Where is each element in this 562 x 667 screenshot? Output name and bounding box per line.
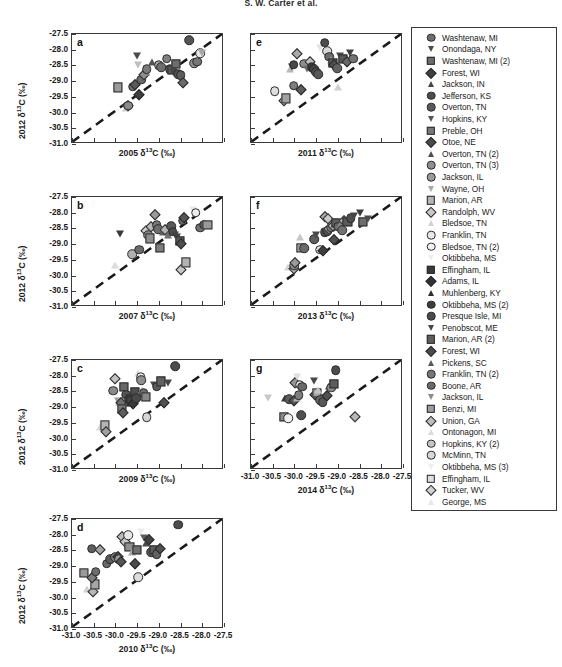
legend-item: Overton, TN (3) [412,160,556,172]
legend-item-label: Bledsoe, TN [442,218,487,228]
legend-item-label: Marion, AR [442,195,483,205]
legend-symbol-square [412,403,442,415]
x-tick-label: -27.5 [393,472,412,481]
y-tick-mark [251,113,255,114]
x-tick-mark [224,464,225,468]
data-point-circle [171,361,181,371]
x-tick-label: -28.5 [170,631,189,640]
legend-item-label: Effingham, IL [442,474,490,484]
x-tick-mark [159,623,160,627]
x-tick-mark [360,138,361,142]
legend-item: Jefferson, KS [412,90,556,102]
plot-area-a: a [71,33,223,143]
data-point-diamond [149,209,161,221]
marker-diamond-icon [426,67,437,78]
x-tick-mark [94,464,95,468]
legend-item: Tucker, WV [412,484,556,496]
data-point-circle [124,101,134,111]
y-tick-mark [251,454,255,455]
legend-item-label: Bledsoe, TN (2) [442,242,499,252]
legend-box: Washtenaw, MIOnondaga, NYWashtenaw, MI (… [411,27,557,511]
legend-item-label: Wayne, OH [442,184,484,194]
y-axis-label-d: 2012 δ13C (‰) [16,568,27,624]
y-tick-mark [72,629,76,630]
marker-diamond-icon [426,485,437,496]
y-tick-mark [72,144,76,145]
marker-tri-icon [428,151,434,157]
legend-item-label: Marion, AR (2) [442,334,495,344]
data-point-diamond [129,558,141,570]
x-tick-mark [224,301,225,305]
x-tick-mark [94,623,95,627]
legend-symbol-diamond [412,484,442,496]
y-tick-mark [72,439,76,440]
data-point-diamond [176,238,188,250]
x-tick-label: -31.0 [241,472,260,481]
legend-item-label: Washtenaw, MI [442,33,498,43]
y-tick-mark [72,307,76,308]
legend-item-label: Muhlenberg, KY [442,288,501,298]
legend-symbol-circle [412,229,442,241]
y-tick-mark [72,423,76,424]
scatter-points-d [72,519,222,627]
y-tick-mark [251,65,255,66]
x-tick-mark [251,301,252,305]
y-tick-label: -28.5 [49,386,68,395]
legend-symbol-tri [412,496,442,508]
legend-item-label: Jackson, IL [442,172,483,182]
legend-symbol-diamond [412,136,442,148]
marker-diamond-icon [426,137,437,148]
legend-item-label: Tucker, WV [442,485,484,495]
y-tick-label: -30.0 [49,270,68,279]
y-tick-mark [72,391,76,392]
x-axis-label-c: 2009 δ13C (‰) [71,473,223,484]
y-tick-label: -30.5 [49,286,68,295]
y-tick-mark [72,550,76,551]
plot-area-e: e [250,33,402,143]
marker-circle-icon [427,92,436,101]
x-tick-mark [137,623,138,627]
y-tick-mark [251,128,255,129]
legend-item-label: Jackson, IL [442,392,483,402]
y-tick-mark [251,307,255,308]
data-point-diamond [158,397,170,409]
legend-item: Adams, IL [412,276,556,288]
x-axis-label-d: 2010 δ13C (‰) [71,643,223,654]
legend-item: Pickens, SC [412,357,556,369]
marker-circle-icon [427,34,436,43]
marker-circle-icon [427,440,436,449]
legend-item-label: Washtenaw, MI (2) [442,56,510,66]
legend-item-label: Otoe, NE [442,137,476,147]
y-tick-label: -31.0 [49,465,68,474]
y-tick-mark [72,598,76,599]
x-tick-label: -31.0 [62,631,81,640]
y-axis-label-c: 2012 δ13C (‰) [16,409,27,465]
x-tick-label: -28.0 [192,631,211,640]
x-tick-mark [115,138,116,142]
data-point-circle [135,245,145,255]
marker-square-icon [427,266,435,274]
x-tick-mark [181,464,182,468]
legend-item: Union, GA [412,415,556,427]
x-tick-mark [381,464,382,468]
y-tick-mark [72,360,76,361]
legend-item-label: Overton, TN (2) [442,149,499,159]
legend-item: Muhlenberg, KY [412,287,556,299]
data-point-square [281,94,290,103]
y-tick-mark [251,260,255,261]
data-point-circle [124,531,134,541]
x-tick-mark [360,301,361,305]
y-tick-mark [72,566,76,567]
legend-item: Overton, TN (2) [412,148,556,160]
y-tick-mark [251,244,255,245]
data-point-circle [270,86,280,96]
data-point-circle [108,386,118,396]
legend-symbol-square [412,125,442,137]
x-tick-label: -30.5 [83,631,102,640]
y-tick-mark [72,228,76,229]
legend-symbol-circle [412,160,442,172]
legend-item-label: Boone, AR [442,381,481,391]
data-point-circle [299,243,309,253]
data-point-square [203,221,212,230]
marker-square-icon [427,126,435,134]
